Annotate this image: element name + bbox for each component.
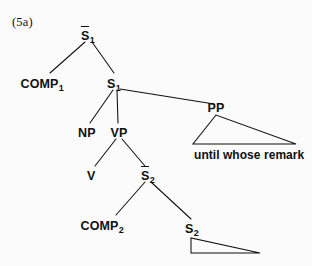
edge-sbar1-comp1	[50, 42, 85, 73]
terminal-pp-string: until whose remark	[194, 148, 304, 162]
edge-vp-sbar2	[122, 139, 145, 166]
node-sbar1: S1	[81, 30, 95, 43]
edge-sbar2-s2	[151, 182, 191, 219]
node-pp: PP	[208, 102, 225, 115]
node-comp1: COMP1	[21, 78, 64, 91]
edge-s1-pp	[120, 89, 214, 104]
node-sbar2: S2	[141, 170, 155, 183]
edge-sbar1-s1	[92, 42, 114, 73]
node-v: V	[87, 170, 95, 183]
tree-lines	[0, 0, 312, 266]
s2-triangle	[191, 238, 260, 253]
node-comp2: COMP2	[81, 220, 124, 233]
node-vp: VP	[111, 127, 128, 140]
node-np: NP	[78, 127, 96, 140]
pp-triangle	[193, 115, 296, 144]
edge-sbar2-comp2	[116, 182, 145, 215]
edge-s1-np	[90, 90, 113, 123]
figure-canvas: (5a) S1 COMP1 S1 NP VP PP V S2 COMP2 S2 …	[0, 0, 312, 266]
node-s2: S2	[185, 223, 199, 236]
node-s1: S1	[107, 78, 121, 91]
edge-vp-v	[95, 139, 116, 166]
edge-s1-vp	[117, 90, 118, 123]
